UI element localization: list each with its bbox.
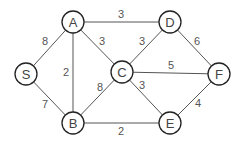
node-label: B <box>69 116 78 131</box>
nodes-layer: SABCDEF <box>15 11 230 134</box>
edge-weight-a-d: 3 <box>118 8 124 20</box>
node-label: F <box>215 67 223 82</box>
edge-weight-s-a: 8 <box>42 35 48 47</box>
edge-weight-e-f: 4 <box>195 97 201 109</box>
node-a: A <box>62 11 84 33</box>
node-d: D <box>159 11 181 33</box>
edge-weight-c-d: 3 <box>139 35 145 47</box>
edge-weight-b-e: 2 <box>118 125 124 137</box>
node-s: S <box>15 63 37 85</box>
node-label: A <box>69 15 78 30</box>
node-f: F <box>208 63 230 85</box>
node-label: E <box>166 116 175 131</box>
node-label: D <box>165 15 174 30</box>
node-e: E <box>159 112 181 134</box>
edge-weight-c-e: 3 <box>139 79 145 91</box>
edge-weight-d-f: 6 <box>194 35 200 47</box>
edge-weight-b-c: 8 <box>97 81 103 93</box>
weighted-graph-diagram: 872338235364 SABCDEF <box>0 0 239 147</box>
node-label: C <box>117 65 126 80</box>
edge-weight-a-b: 2 <box>63 66 69 78</box>
edge-weight-c-f: 5 <box>168 59 174 71</box>
edge-weight-s-b: 7 <box>42 98 48 110</box>
edge-weight-a-c: 3 <box>99 35 105 47</box>
edge-c-f <box>122 72 219 74</box>
node-b: B <box>62 112 84 134</box>
node-c: C <box>111 61 133 83</box>
node-label: S <box>22 67 31 82</box>
